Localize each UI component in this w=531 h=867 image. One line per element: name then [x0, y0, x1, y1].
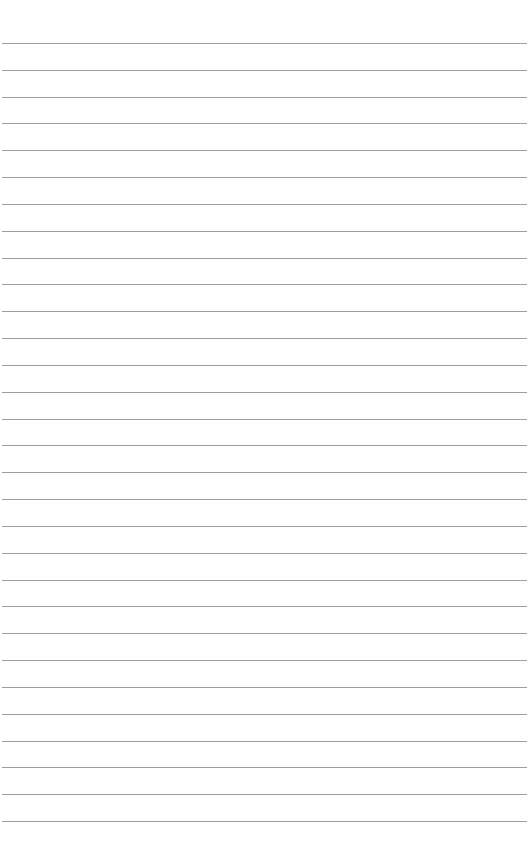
ruled-line	[2, 821, 527, 822]
ruled-line	[2, 258, 527, 259]
ruled-line	[2, 123, 527, 124]
ruled-line	[2, 338, 527, 339]
ruled-line	[2, 687, 527, 688]
ruled-line	[2, 499, 527, 500]
ruled-line	[2, 472, 527, 473]
ruled-line	[2, 741, 527, 742]
ruled-line	[2, 714, 527, 715]
ruled-line	[2, 526, 527, 527]
ruled-line	[2, 606, 527, 607]
ruled-line	[2, 231, 527, 232]
ruled-line	[2, 365, 527, 366]
ruled-line	[2, 311, 527, 312]
ruled-line	[2, 97, 527, 98]
ruled-line	[2, 150, 527, 151]
ruled-line	[2, 70, 527, 71]
ruled-line	[2, 767, 527, 768]
ruled-line	[2, 419, 527, 420]
ruled-line	[2, 660, 527, 661]
ruled-line	[2, 445, 527, 446]
ruled-line	[2, 392, 527, 393]
ruled-line	[2, 177, 527, 178]
lined-paper-page	[0, 0, 531, 867]
ruled-line	[2, 284, 527, 285]
ruled-line	[2, 580, 527, 581]
ruled-line	[2, 794, 527, 795]
ruled-line	[2, 553, 527, 554]
ruled-line	[2, 43, 527, 44]
ruled-line	[2, 204, 527, 205]
ruled-line	[2, 633, 527, 634]
